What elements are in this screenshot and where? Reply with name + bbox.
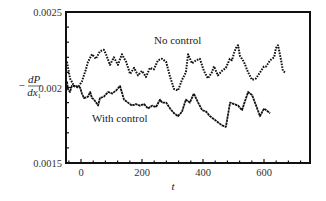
x-tick-label: 400 bbox=[195, 167, 211, 178]
y-axis-title-numerator: dP bbox=[28, 73, 41, 85]
x-tick-label: 600 bbox=[256, 167, 272, 178]
x-tick-label: 200 bbox=[134, 167, 150, 178]
annotation-no-control: No control bbox=[154, 34, 201, 46]
y-axis-title-minus: − bbox=[18, 79, 25, 91]
x-axis-ticks: 0200400600 bbox=[69, 159, 301, 178]
annotation-with-control: With control bbox=[92, 112, 147, 124]
series-no-control-line bbox=[67, 45, 285, 90]
x-axis-title: t bbox=[171, 180, 175, 192]
y-tick-label: 0.0025 bbox=[33, 7, 62, 18]
y-tick-label: 0.0015 bbox=[33, 158, 62, 169]
x-tick-label: 0 bbox=[78, 167, 83, 178]
line-chart: 0.00150.0020.0025 0200400600 dP − dx1 t … bbox=[0, 0, 326, 201]
y-tick-label: 0.002 bbox=[38, 83, 62, 94]
